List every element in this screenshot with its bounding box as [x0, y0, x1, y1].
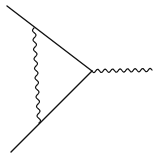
- feynman-diagram: [0, 0, 160, 157]
- external-photon: [92, 68, 152, 72]
- incoming-fermion-bottom: [11, 71, 92, 152]
- internal-photon: [33, 28, 41, 123]
- incoming-fermion-top: [7, 6, 92, 71]
